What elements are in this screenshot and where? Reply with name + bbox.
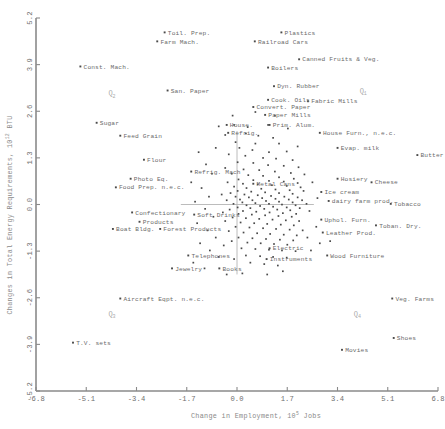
- data-point: [247, 242, 249, 244]
- data-point: [228, 153, 230, 155]
- data-point: [297, 197, 299, 199]
- data-point-label: Metal Cans: [256, 181, 295, 188]
- data-point: [298, 220, 300, 222]
- data-point: [269, 212, 271, 214]
- data-point-label: Ice cream: [324, 189, 359, 196]
- data-point: [297, 182, 299, 184]
- y-tick-label: -1.3: [26, 242, 34, 260]
- data-point-label: dairy farm prod.: [332, 198, 394, 205]
- labeled-data-point: [267, 99, 269, 101]
- data-point: [235, 141, 237, 143]
- labeled-data-point: [131, 211, 133, 213]
- data-point: [255, 248, 257, 250]
- labeled-data-point: [159, 228, 161, 230]
- labeled-data-point: [143, 159, 145, 161]
- data-point: [301, 199, 303, 201]
- data-point: [233, 186, 235, 188]
- data-point: [258, 169, 260, 171]
- labeled-data-point: [227, 132, 229, 134]
- data-point: [255, 143, 257, 145]
- data-point: [317, 197, 319, 199]
- data-point: [240, 222, 242, 224]
- labeled-data-point: [393, 337, 395, 339]
- data-point-label: Leather Prod.: [326, 230, 376, 237]
- data-point: [243, 232, 245, 234]
- data-point-label: Dyn. Rubber: [277, 83, 320, 90]
- data-point: [289, 209, 291, 211]
- data-point: [218, 126, 220, 128]
- labeled-data-point: [326, 255, 328, 257]
- data-point-label: Photo Eq.: [134, 176, 169, 183]
- data-point: [253, 222, 255, 224]
- data-point: [235, 196, 237, 198]
- data-point: [282, 212, 284, 214]
- labeled-data-point: [266, 258, 268, 260]
- data-point: [263, 263, 265, 265]
- data-point: [221, 194, 223, 196]
- data-point: [315, 226, 317, 228]
- data-point: [292, 240, 294, 242]
- labeled-data-point: [280, 31, 282, 33]
- labeled-data-point: [337, 178, 339, 180]
- data-point: [224, 220, 226, 222]
- data-point-label: Toban. Dry.: [379, 223, 422, 230]
- data-point: [209, 250, 211, 252]
- x-tick-label: 3.4: [331, 395, 344, 403]
- data-point: [233, 258, 235, 260]
- data-point-label: Products: [143, 219, 174, 226]
- data-point-label: San. Paper: [171, 88, 210, 95]
- data-point: [205, 164, 207, 166]
- data-point-label: Electric: [273, 245, 304, 252]
- labeled-data-point: [371, 181, 373, 183]
- labeled-data-point: [391, 298, 393, 300]
- labeled-data-point: [79, 66, 81, 68]
- data-point: [300, 186, 302, 188]
- data-point: [246, 187, 248, 189]
- data-point: [255, 202, 257, 204]
- quadrant-label: Q3: [108, 310, 115, 321]
- labeled-data-point: [267, 67, 269, 69]
- data-point: [252, 237, 254, 239]
- data-point: [255, 211, 257, 213]
- data-point: [238, 179, 240, 181]
- labeled-data-point: [269, 247, 271, 249]
- data-point: [242, 202, 244, 204]
- labeled-data-point: [193, 214, 195, 216]
- data-point: [244, 194, 246, 196]
- data-point: [252, 179, 254, 181]
- data-point: [265, 238, 267, 240]
- data-point: [270, 195, 272, 197]
- y-tick-label: 2.6: [26, 105, 34, 118]
- labeled-data-point: [320, 219, 322, 221]
- quadrant-label: Q1: [360, 87, 367, 98]
- y-tick-label: -3.9: [26, 336, 34, 354]
- data-point: [252, 149, 254, 151]
- data-point-label: Paper Mills: [268, 112, 311, 119]
- data-point: [247, 174, 249, 176]
- data-point-label: Boilers: [271, 65, 298, 72]
- data-point: [250, 191, 252, 193]
- data-point: [226, 199, 228, 201]
- data-point: [278, 143, 280, 145]
- labeled-data-point: [139, 221, 141, 223]
- point-labels-layer: Toil. Prep.Farm Mach.PlasticsRailroad Ca…: [76, 30, 444, 354]
- data-point: [329, 240, 331, 242]
- data-point: [295, 213, 297, 215]
- data-point: [298, 166, 300, 168]
- data-point-label: Telephones: [191, 253, 230, 260]
- data-point: [251, 214, 253, 216]
- labeled-data-point: [264, 114, 266, 116]
- data-point: [265, 200, 267, 202]
- labeled-data-point: [164, 31, 166, 33]
- data-point: [215, 237, 217, 239]
- data-point-label: T.V. sets: [76, 340, 111, 347]
- data-point: [264, 214, 266, 216]
- data-point: [223, 245, 225, 247]
- y-axis-ticks: 5.23.92.61.30.0-1.3-2.6-3.9-5.2: [26, 11, 40, 399]
- labeled-data-point: [112, 228, 114, 230]
- data-point: [224, 134, 226, 136]
- labeled-data-point: [190, 171, 192, 173]
- data-point: [278, 215, 280, 217]
- data-point: [237, 207, 239, 209]
- quadrant-label: Q4: [354, 310, 361, 321]
